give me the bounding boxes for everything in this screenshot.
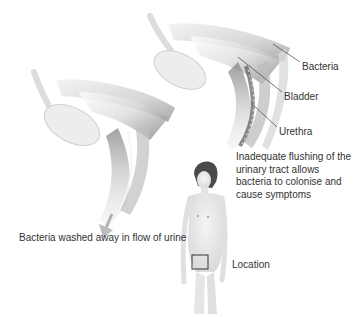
caption-inadequate-flushing: Inadequate flushing of the urinary tract… (236, 151, 351, 201)
healthy-flow-panel (34, 72, 175, 238)
label-bacteria: Bacteria (302, 61, 339, 74)
label-bladder: Bladder (284, 91, 318, 104)
label-urethra: Urethra (279, 126, 312, 139)
female-figure (183, 162, 225, 315)
infection-panel (148, 16, 290, 150)
caption-washed-away: Bacteria washed away in flow of urine (19, 232, 186, 245)
label-location: Location (232, 259, 270, 272)
